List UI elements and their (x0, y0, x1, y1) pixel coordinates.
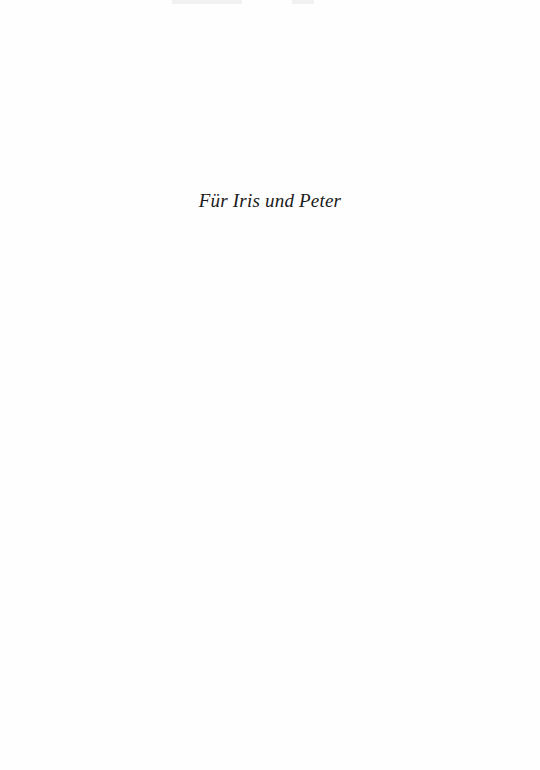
show-through-mark (172, 0, 242, 4)
show-through-mark (292, 0, 314, 4)
book-page: Für Iris und Peter (0, 0, 540, 770)
dedication-text: Für Iris und Peter (0, 190, 540, 212)
